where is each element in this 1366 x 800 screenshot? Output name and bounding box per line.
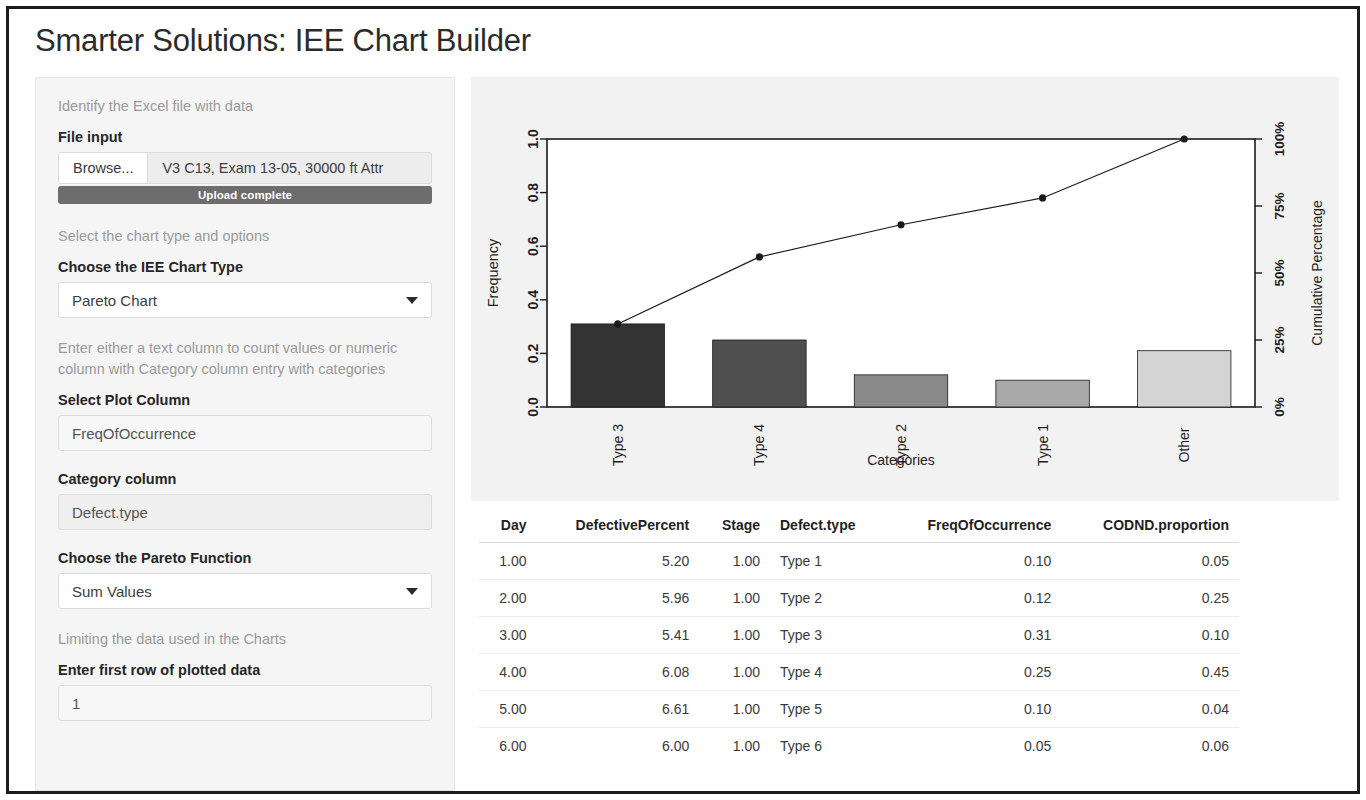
table-cell: 5.41 (537, 617, 700, 654)
bar-type-3 (571, 324, 664, 407)
table-cell: 0.04 (1061, 691, 1239, 728)
plot-column-input[interactable]: FreqOfOccurrence (58, 415, 432, 451)
main-content: IEE Pareto Chart of Frequency of Occurre… (471, 77, 1339, 791)
table-cell: Type 5 (770, 691, 886, 728)
page-title: Smarter Solutions: IEE Chart Builder (35, 23, 531, 59)
pareto-function-value: Sum Values (72, 583, 152, 600)
table-cell: 0.31 (886, 617, 1061, 654)
table-cell: Type 1 (770, 543, 886, 580)
x-axis-label: Categories (867, 452, 935, 468)
table-header-defect-type: Defect.type (770, 509, 886, 543)
x-tick-label: Type 3 (610, 424, 626, 466)
table-cell: Type 3 (770, 617, 886, 654)
table-cell: 4.00 (479, 654, 537, 691)
pareto-chart-panel: IEE Pareto Chart of Frequency of Occurre… (471, 77, 1339, 501)
table-cell: 0.10 (886, 691, 1061, 728)
category-column-label: Category column (58, 471, 432, 487)
table-cell: 6.08 (537, 654, 700, 691)
table-cell: 0.10 (1061, 617, 1239, 654)
table-cell: 3.00 (479, 617, 537, 654)
cumulative-point (897, 221, 904, 228)
bar-type-1 (996, 380, 1089, 407)
table-row: 5.006.611.00Type 50.100.04 (479, 691, 1239, 728)
y2-tick-label: 75% (1272, 192, 1287, 219)
y-tick-label: 1.0 (525, 129, 541, 149)
table-cell: 5.96 (537, 580, 700, 617)
table-cell: 1.00 (479, 543, 537, 580)
pareto-function-select[interactable]: Sum Values (58, 573, 432, 609)
y2-tick-label: 25% (1272, 326, 1287, 353)
table-cell: 0.10 (886, 543, 1061, 580)
table-row: 4.006.081.00Type 40.250.45 (479, 654, 1239, 691)
table-row: 6.006.001.00Type 60.050.06 (479, 728, 1239, 765)
upload-progress-bar: Upload complete (58, 186, 432, 204)
table-cell: 6.00 (537, 728, 700, 765)
table-cell: 6.00 (479, 728, 537, 765)
table-cell: 5.00 (479, 691, 537, 728)
y2-tick-label: 100% (1272, 122, 1287, 157)
selected-file-name: V3 C13, Exam 13-05, 30000 ft Attr (148, 153, 431, 183)
bar-other (1137, 351, 1230, 407)
chevron-down-icon (406, 297, 418, 304)
table-body: 1.005.201.00Type 10.100.052.005.961.00Ty… (479, 543, 1239, 765)
table-header-defectivepercent: DefectivePercent (537, 509, 700, 543)
table-cell: 6.61 (537, 691, 700, 728)
y-tick-label: 0.8 (525, 183, 541, 203)
y-tick-label: 0.0 (525, 397, 541, 417)
table-cell: 1.00 (699, 617, 770, 654)
chart-type-select[interactable]: Pareto Chart (58, 282, 432, 318)
cumulative-point (1039, 194, 1046, 201)
x-tick-label: Other (1176, 427, 1192, 462)
controls-sidebar: Identify the Excel file with data File i… (35, 77, 455, 791)
category-column-input[interactable]: Defect.type (58, 494, 432, 530)
table-cell: 0.05 (886, 728, 1061, 765)
cumulative-point (756, 253, 763, 260)
y-axis-label: Frequency (485, 238, 501, 307)
file-section-note: Identify the Excel file with data (58, 96, 432, 117)
table-cell: 1.00 (699, 691, 770, 728)
browse-button[interactable]: Browse... (59, 153, 148, 183)
table-cell: 1.00 (699, 580, 770, 617)
y2-tick-label: 0% (1272, 397, 1287, 417)
chevron-down-icon (406, 588, 418, 595)
table-header-codnd-proportion: CODND.proportion (1061, 509, 1239, 543)
y-tick-label: 0.4 (525, 290, 541, 310)
chart-type-value: Pareto Chart (72, 292, 157, 309)
cumulative-point (614, 320, 621, 327)
bar-type-2 (854, 375, 947, 407)
table-header-stage: Stage (699, 509, 770, 543)
table-cell: 1.00 (699, 654, 770, 691)
y2-tick-label: 50% (1272, 259, 1287, 286)
pareto-chart: 0.00.20.40.60.81.0Frequency0%25%50%75%10… (471, 77, 1339, 501)
y2-axis-label: Cumulative Percentage (1309, 200, 1325, 346)
application-window: Smarter Solutions: IEE Chart Builder Ide… (6, 6, 1360, 794)
first-row-input[interactable]: 1 (58, 685, 432, 721)
table-cell: 2.00 (479, 580, 537, 617)
table-header-day: Day (479, 509, 537, 543)
limiting-note: Limiting the data used in the Charts (58, 629, 432, 650)
plot-column-label: Select Plot Column (58, 392, 432, 408)
table-cell: 0.06 (1061, 728, 1239, 765)
table-cell: 5.20 (537, 543, 700, 580)
data-table: DayDefectivePercentStageDefect.typeFreqO… (479, 509, 1239, 764)
table-cell: Type 2 (770, 580, 886, 617)
bar-type-4 (713, 340, 806, 407)
table-cell: 0.05 (1061, 543, 1239, 580)
x-tick-label: Type 1 (1035, 424, 1051, 466)
y-tick-label: 0.6 (525, 236, 541, 256)
table-cell: 0.25 (886, 654, 1061, 691)
table-cell: Type 4 (770, 654, 886, 691)
upload-status-label: Upload complete (198, 189, 292, 201)
plot-column-note: Enter either a text column to count valu… (58, 338, 432, 380)
file-input-label: File input (58, 129, 432, 145)
table-cell: Type 6 (770, 728, 886, 765)
first-row-label: Enter first row of plotted data (58, 662, 432, 678)
table-cell: 1.00 (699, 543, 770, 580)
table-row: 1.005.201.00Type 10.100.05 (479, 543, 1239, 580)
y-tick-label: 0.2 (525, 343, 541, 363)
file-input[interactable]: Browse... V3 C13, Exam 13-05, 30000 ft A… (58, 152, 432, 184)
table-cell: 0.45 (1061, 654, 1239, 691)
table-row: 2.005.961.00Type 20.120.25 (479, 580, 1239, 617)
table-cell: 0.12 (886, 580, 1061, 617)
table-row: 3.005.411.00Type 30.310.10 (479, 617, 1239, 654)
